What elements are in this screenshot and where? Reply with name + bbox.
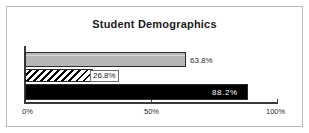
bar-value-label: 63.8% [190, 56, 213, 65]
x-tick-label-0: 0% [22, 107, 33, 116]
bar-value-label: 88.2% [212, 88, 238, 97]
chart-screenshot: Student Demographics 0% 50% 100% 63.8% 2… [0, 0, 309, 133]
bar-value-label: 26.8% [90, 70, 119, 82]
chart-title: Student Demographics [0, 18, 309, 30]
bar-row [25, 52, 186, 67]
bar-highlight [26, 55, 185, 56]
x-tick-label-2: 100% [266, 107, 285, 116]
x-tick-label-1: 50% [144, 107, 159, 116]
x-tick-mark-2 [277, 99, 278, 103]
bar-row [25, 69, 93, 82]
